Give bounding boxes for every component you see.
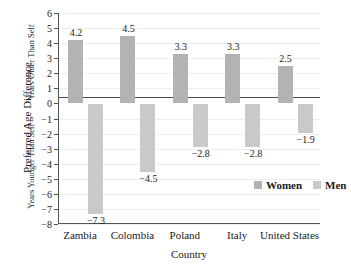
legend-label: Men	[325, 179, 346, 191]
legend-item: Women	[254, 179, 302, 191]
y-tick-label: −2	[41, 128, 52, 139]
bar-men	[298, 104, 313, 133]
bar-value-label-women: 3.3	[159, 41, 203, 52]
y-tick-label: 3	[47, 53, 52, 64]
bar-group: 3.3−2.8Poland	[163, 13, 215, 224]
y-tick-label: −4	[41, 158, 52, 169]
bar-value-label-women: 4.2	[54, 27, 98, 38]
bar-women	[278, 66, 293, 104]
bar-value-label-women: 4.5	[106, 23, 150, 34]
y-tick-label: −6	[41, 188, 52, 199]
y-tick-label: −7	[41, 203, 52, 214]
bar-men	[245, 104, 260, 146]
bar-men	[193, 104, 208, 146]
legend-swatch-icon	[313, 181, 321, 189]
bar-men	[140, 104, 155, 172]
y-tick-label: 0	[47, 98, 52, 109]
y-axis-lower-caption: Years Younger Than Self	[27, 115, 36, 217]
x-axis-title: Country	[58, 248, 320, 260]
bar-value-label-women: 3.3	[211, 41, 255, 52]
x-tick-label: United States	[256, 229, 324, 241]
y-tick-label: 4	[47, 38, 52, 49]
bar-group: 2.5−1.9United States	[268, 13, 320, 224]
bar-women	[120, 36, 135, 104]
y-axis-upper-caption: Years Older Than Self	[27, 18, 36, 106]
y-tick-label: 5	[47, 23, 52, 34]
legend-item: Men	[313, 179, 346, 191]
bar-women	[173, 54, 188, 104]
tick-mark	[54, 224, 58, 225]
plot-area: 6543210−1−2−3−4−5−6−7−8 4.2−7.3Zambia4.5…	[58, 13, 320, 224]
bar-value-label-men: −1.9	[284, 134, 328, 145]
y-tick-label: −8	[41, 219, 52, 230]
chart-legend: WomenMen	[254, 179, 351, 191]
y-tick-label: 2	[47, 68, 52, 79]
legend-label: Women	[266, 179, 302, 191]
y-tick-label: −5	[41, 173, 52, 184]
bar-group: 3.3−2.8Italy	[215, 13, 267, 224]
y-tick-label: −1	[41, 113, 52, 124]
legend-swatch-icon	[254, 181, 262, 189]
y-tick-label: −3	[41, 143, 52, 154]
bar-group: 4.5−4.5Colombia	[110, 13, 162, 224]
bar-women	[68, 40, 83, 103]
bar-group: 4.2−7.3Zambia	[58, 13, 110, 224]
y-tick-label: 6	[47, 8, 52, 19]
bar-value-label-women: 2.5	[264, 53, 308, 64]
bar-men	[88, 104, 103, 214]
bar-women	[225, 54, 240, 104]
y-tick-label: 1	[47, 83, 52, 94]
